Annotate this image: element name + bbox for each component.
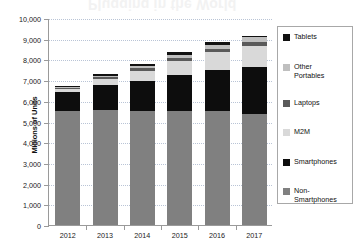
legend-label: Other Portables: [294, 63, 324, 80]
y-axis-tick-label: 4,000: [23, 139, 41, 148]
bar-segment-tablets[interactable]: [93, 74, 118, 76]
bar-segment-tablets[interactable]: [130, 64, 155, 66]
bar-segment-m2m[interactable]: [55, 89, 80, 91]
gridline: [49, 60, 272, 61]
legend-label: Tablets: [294, 33, 317, 42]
y-axis-tick-label: 6,000: [23, 97, 41, 106]
x-axis-label-2016: 2016: [209, 231, 225, 240]
bar-segment-m2m[interactable]: [205, 52, 230, 70]
x-axis-tick: [198, 225, 199, 230]
bar-segment-smartphones[interactable]: [167, 75, 192, 111]
bar-segment-m2m[interactable]: [93, 79, 118, 84]
y-axis-tick-label: 1,000: [23, 201, 41, 210]
legend-item-other-portables[interactable]: Other Portables: [283, 63, 324, 80]
bar-segment-laptops[interactable]: [205, 49, 230, 52]
gridline: [49, 164, 272, 165]
gridline: [49, 40, 272, 41]
y-axis-tick-label: 5,000: [23, 118, 41, 127]
bar-2013[interactable]: [93, 74, 118, 225]
x-axis-label-2013: 2013: [97, 231, 113, 240]
bar-segment-tablets[interactable]: [167, 52, 192, 55]
bar-segment-laptops[interactable]: [93, 77, 118, 79]
y-axis-tick: [44, 40, 49, 41]
x-axis-tick: [86, 225, 87, 230]
bar-segment-tablets[interactable]: [55, 86, 80, 87]
y-axis-tick: [44, 164, 49, 165]
bar-segment-other-portables[interactable]: [55, 87, 80, 88]
bar-segment-non-smartphones[interactable]: [55, 111, 80, 225]
bar-segment-m2m[interactable]: [242, 46, 267, 68]
ghost-title-remnant: Plugging in the World: [88, 0, 278, 13]
gridline: [49, 123, 272, 124]
bar-segment-smartphones[interactable]: [55, 92, 80, 112]
y-axis-tick: [44, 102, 49, 103]
plot-area: 01,0002,0003,0004,0005,0006,0007,0008,00…: [48, 19, 272, 226]
legend-label: Laptops: [294, 99, 320, 108]
chart-root: Plugging in the World Millions of Units …: [0, 0, 355, 249]
bar-segment-non-smartphones[interactable]: [93, 110, 118, 225]
x-axis-label-2017: 2017: [246, 231, 262, 240]
gridline: [49, 205, 272, 206]
bar-segment-laptops[interactable]: [55, 88, 80, 89]
y-axis-tick: [44, 205, 49, 206]
y-axis-tick-label: 9,000: [23, 35, 41, 44]
bar-segment-other-portables[interactable]: [130, 66, 155, 68]
legend-label: M2M: [294, 128, 310, 137]
bar-segment-non-smartphones[interactable]: [167, 111, 192, 225]
x-axis-tick: [124, 225, 125, 230]
bar-2012[interactable]: [55, 86, 80, 225]
legend-item-tablets[interactable]: Tablets: [283, 33, 317, 42]
y-axis-tick-label: 2,000: [23, 180, 41, 189]
gridline: [49, 102, 272, 103]
legend-item-laptops[interactable]: Laptops: [283, 99, 320, 108]
bar-2016[interactable]: [205, 42, 230, 225]
bar-2017[interactable]: [242, 36, 267, 225]
bar-segment-smartphones[interactable]: [130, 81, 155, 111]
bar-segment-other-portables[interactable]: [205, 45, 230, 49]
x-axis-tick: [236, 225, 237, 230]
legend-label: Non- Smartphones: [294, 187, 337, 204]
legend-swatch-icon: [283, 100, 290, 107]
y-axis-tick-label: 7,000: [23, 77, 41, 86]
bar-segment-other-portables[interactable]: [167, 55, 192, 58]
gridline: [49, 143, 272, 144]
bar-segment-non-smartphones[interactable]: [242, 114, 267, 225]
y-axis-tick: [44, 143, 49, 144]
y-axis-tick: [44, 60, 49, 61]
bar-segment-smartphones[interactable]: [205, 70, 230, 111]
x-axis-tick: [161, 225, 162, 230]
bar-segment-laptops[interactable]: [167, 58, 192, 61]
y-axis-tick: [44, 81, 49, 82]
bar-segment-laptops[interactable]: [242, 42, 267, 46]
y-axis-tick-label: 8,000: [23, 56, 41, 65]
legend-swatch-icon: [283, 159, 290, 166]
gridline: [49, 185, 272, 186]
y-axis-tick-label: 10,000: [19, 15, 41, 24]
bar-segment-m2m[interactable]: [130, 71, 155, 81]
y-axis-tick: [44, 19, 49, 20]
x-axis-label-2014: 2014: [134, 231, 150, 240]
gridline: [49, 19, 272, 20]
legend-item-non-smartphones[interactable]: Non- Smartphones: [283, 187, 337, 204]
bar-2014[interactable]: [130, 64, 155, 225]
legend-swatch-icon: [283, 129, 290, 136]
bar-segment-m2m[interactable]: [167, 61, 192, 75]
bar-segment-tablets[interactable]: [242, 36, 267, 38]
bar-segment-other-portables[interactable]: [93, 76, 118, 78]
x-axis-label-2015: 2015: [172, 231, 188, 240]
gridline: [49, 81, 272, 82]
bar-2015[interactable]: [167, 52, 192, 225]
legend-item-m2m[interactable]: M2M: [283, 128, 310, 137]
bar-segment-non-smartphones[interactable]: [205, 111, 230, 225]
bar-segment-smartphones[interactable]: [93, 85, 118, 110]
legend-label: Smartphones: [294, 158, 337, 167]
bar-segment-tablets[interactable]: [205, 42, 230, 45]
bar-segment-other-portables[interactable]: [242, 37, 267, 42]
bar-segment-non-smartphones[interactable]: [130, 111, 155, 225]
legend-swatch-icon: [283, 64, 290, 71]
legend-item-smartphones[interactable]: Smartphones: [283, 158, 337, 167]
bar-segment-smartphones[interactable]: [242, 67, 267, 114]
bar-segment-laptops[interactable]: [130, 68, 155, 70]
x-axis-label-2012: 2012: [60, 231, 76, 240]
y-axis-tick-label: 0: [37, 222, 41, 231]
